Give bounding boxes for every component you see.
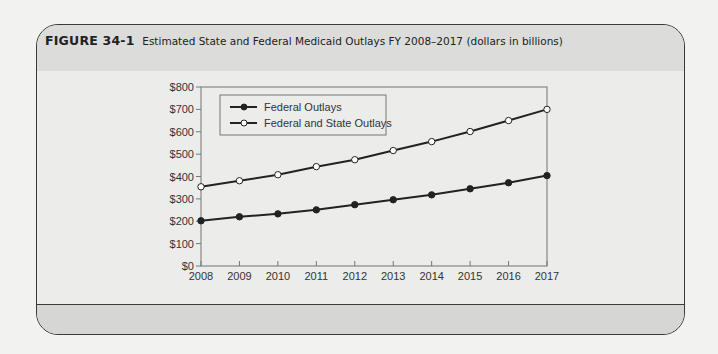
- open-marker: [505, 117, 511, 123]
- x-tick-label: 2008: [189, 270, 213, 282]
- legend-label: Federal Outlays: [264, 101, 342, 113]
- y-tick-label: $800: [170, 81, 194, 93]
- x-tick-label: 2011: [305, 270, 329, 282]
- filled-marker: [352, 201, 358, 207]
- y-tick-label: $300: [170, 193, 194, 205]
- x-tick-label: 2017: [535, 270, 559, 282]
- open-marker: [313, 163, 319, 169]
- filled-marker: [428, 192, 434, 198]
- x-tick-label: 2010: [266, 270, 290, 282]
- open-marker: [544, 106, 550, 112]
- y-tick-label: $600: [170, 126, 194, 138]
- open-marker: [198, 184, 204, 190]
- filled-marker: [313, 207, 319, 213]
- filled-marker: [198, 218, 204, 224]
- x-tick-label: 2012: [343, 270, 367, 282]
- open-marker: [236, 178, 242, 184]
- x-tick-label: 2009: [227, 270, 251, 282]
- legend-label: Federal and State Outlays: [264, 117, 392, 129]
- open-marker: [467, 128, 473, 134]
- filled-marker: [467, 186, 473, 192]
- open-marker: [390, 147, 396, 153]
- y-tick-label: $500: [170, 148, 194, 160]
- legend-filled-marker: [241, 104, 247, 110]
- y-tick-label: $100: [170, 238, 194, 250]
- x-tick-label: 2014: [419, 270, 443, 282]
- series-line-federal: [201, 176, 547, 221]
- y-tick-label: $700: [170, 103, 194, 115]
- filled-marker: [390, 197, 396, 203]
- filled-marker: [505, 180, 511, 186]
- open-marker: [352, 157, 358, 163]
- filled-marker: [236, 214, 242, 220]
- x-tick-label: 2015: [458, 270, 482, 282]
- open-marker: [428, 138, 434, 144]
- y-tick-label: $400: [170, 171, 194, 183]
- open-marker: [275, 172, 281, 178]
- line-chart: $0$100$200$300$400$500$600$700$800200820…: [0, 0, 718, 354]
- filled-marker: [275, 211, 281, 217]
- x-tick-label: 2013: [381, 270, 405, 282]
- x-tick-label: 2016: [496, 270, 520, 282]
- legend-open-marker: [241, 120, 247, 126]
- filled-marker: [544, 172, 550, 178]
- y-tick-label: $200: [170, 215, 194, 227]
